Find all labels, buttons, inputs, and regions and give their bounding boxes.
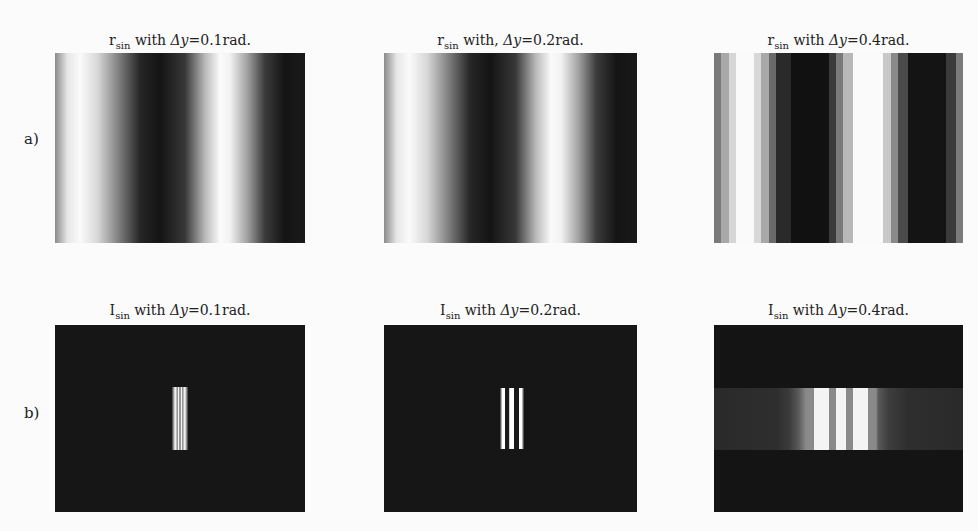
- title-delta: Δy: [171, 32, 189, 48]
- title-symbol: r: [109, 32, 116, 48]
- title-symbol: r: [437, 32, 444, 48]
- bright-band: [714, 388, 963, 450]
- title-text: with: [130, 32, 170, 48]
- title-text: with: [130, 302, 170, 318]
- title-value: =0.2rad.: [521, 32, 583, 48]
- panel-title-a1: rsin with Δy=0.1rad.: [55, 32, 305, 51]
- title-value: =0.1rad.: [189, 32, 251, 48]
- panel-title-b2: Isin with Δy=0.2rad.: [384, 302, 637, 321]
- title-subscript: sin: [774, 40, 789, 51]
- image-panel-b3: [714, 325, 963, 512]
- title-text: with: [788, 302, 828, 318]
- title-subscript: sin: [116, 40, 131, 51]
- title-delta: Δy: [829, 32, 847, 48]
- panel-title-a2: rsin with, Δy=0.2rad.: [384, 32, 637, 51]
- title-text: with: [460, 302, 500, 318]
- title-value: =0.1rad.: [188, 302, 250, 318]
- title-value: =0.4rad.: [846, 302, 908, 318]
- title-delta: Δy: [828, 302, 846, 318]
- image-panel-b1: [55, 325, 305, 512]
- panel-title-b1: Isin with Δy=0.1rad.: [55, 302, 305, 321]
- image-panel-a1: [55, 53, 305, 243]
- title-subscript: sin: [446, 310, 461, 321]
- title-text: with: [789, 32, 829, 48]
- title-text: with,: [459, 32, 503, 48]
- title-value: =0.4rad.: [847, 32, 909, 48]
- image-panel-a2: [384, 53, 637, 243]
- title-subscript: sin: [774, 310, 789, 321]
- panel-title-a3: rsin with Δy=0.4rad.: [714, 32, 963, 51]
- title-subscript: sin: [115, 310, 130, 321]
- bright-stripes: [500, 388, 524, 449]
- title-delta: Δy: [503, 32, 521, 48]
- title-subscript: sin: [444, 40, 459, 51]
- row-label-b: b): [24, 404, 39, 422]
- title-value: =0.2rad.: [518, 302, 580, 318]
- bright-stripes: [172, 387, 188, 450]
- row-label-a: a): [24, 130, 39, 148]
- image-panel-b2: [384, 325, 637, 512]
- title-delta: Δy: [500, 302, 518, 318]
- panel-title-b3: Isin with Δy=0.4rad.: [714, 302, 963, 321]
- image-panel-a3: [714, 53, 963, 243]
- title-delta: Δy: [170, 302, 188, 318]
